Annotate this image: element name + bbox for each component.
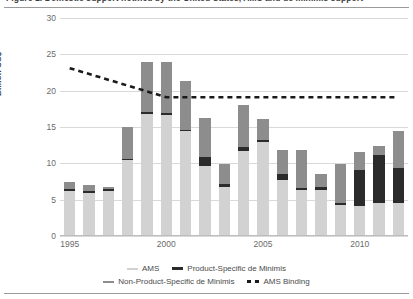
x-axis-tick: 2005: [254, 239, 273, 249]
legend-swatch-icon: [247, 280, 259, 283]
legend-label: Non-Product-Specific de Minimis: [118, 277, 234, 286]
title-divider: [4, 7, 409, 8]
x-axis-tick: 2000: [157, 239, 176, 249]
legend-label: AMS: [142, 264, 159, 273]
y-axis-tick: 5: [8, 196, 56, 205]
y-axis-tick: 10: [8, 159, 56, 168]
legend-swatch-icon: [103, 281, 114, 283]
legend-item[interactable]: AMS Binding: [247, 277, 309, 286]
figure-title-strip: Figure 1. Domestic support notified by t…: [0, 0, 413, 7]
binding-line-path: [70, 68, 399, 97]
x-axis-tick: 1995: [60, 239, 79, 249]
legend-label: Product-Specific de Minimis: [187, 264, 286, 273]
plot-area: [60, 18, 408, 236]
legend-item[interactable]: Product-Specific de Minimis: [172, 264, 286, 273]
x-axis-line: [60, 235, 408, 236]
y-axis-title: Billion US$: [0, 52, 3, 96]
bottom-divider: [4, 293, 409, 294]
y-axis-tick: 15: [8, 123, 56, 132]
y-axis-tick-labels: 051015202530: [0, 18, 56, 236]
y-axis-tick: 0: [8, 232, 56, 241]
y-axis-tick: 25: [8, 50, 56, 59]
legend-swatch-icon: [172, 267, 183, 271]
y-axis-tick: 20: [8, 87, 56, 96]
legend-row-2: Non-Product-Specific de MinimisAMS Bindi…: [0, 275, 413, 288]
chart-figure: Figure 1. Domestic support notified by t…: [0, 0, 413, 299]
figure-title: Figure 1. Domestic support notified by t…: [6, 0, 363, 3]
legend-label: AMS Binding: [263, 277, 309, 286]
x-axis-tick-labels: 1995200020052010: [60, 239, 408, 253]
legend-row-1: AMSProduct-Specific de Minimis: [0, 262, 413, 275]
legend: AMSProduct-Specific de MinimisNon-Produc…: [0, 262, 413, 288]
gridline: [60, 236, 408, 237]
legend-item[interactable]: AMS: [127, 264, 159, 273]
legend-swatch-icon: [127, 268, 138, 270]
x-axis-tick: 2010: [350, 239, 369, 249]
y-axis-tick: 30: [8, 14, 56, 23]
ams-binding-line: [60, 18, 408, 236]
legend-item[interactable]: Non-Product-Specific de Minimis: [103, 277, 234, 286]
